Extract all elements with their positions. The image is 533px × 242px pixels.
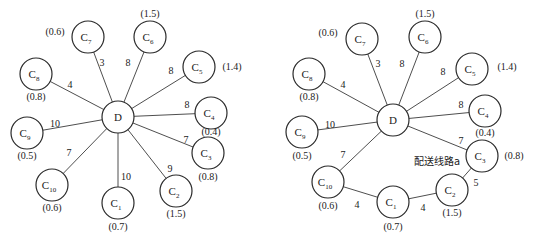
edge-weight: 8 bbox=[400, 58, 405, 69]
edge-weight: 8 bbox=[169, 65, 174, 76]
edge-weight: 4 bbox=[68, 79, 73, 90]
edge-weight: 10 bbox=[50, 118, 60, 129]
depot-node: D bbox=[102, 101, 134, 133]
edge-weight: 8 bbox=[441, 66, 446, 77]
customer-node-c9: C9 bbox=[286, 116, 318, 148]
customer-node-c4: C4 bbox=[195, 97, 227, 129]
depot-label: D bbox=[114, 111, 122, 123]
edge-D-4 bbox=[134, 114, 195, 117]
vehicle-routing-diagrams: 109788834107DC1(0.7)C2(1.5)C3(0.8)C4(0.4… bbox=[0, 0, 533, 242]
customer-demand: (0.5) bbox=[17, 150, 36, 162]
customer-demand: (0.6) bbox=[42, 202, 61, 214]
customer-demand: (0.6) bbox=[318, 200, 337, 212]
edge-weight: 7 bbox=[459, 135, 464, 146]
customer-node-c10: C10 bbox=[312, 166, 344, 198]
edge-weight: 4 bbox=[355, 199, 360, 210]
customer-demand: (1.5) bbox=[166, 208, 185, 220]
customer-node-c1: C1 bbox=[377, 186, 409, 218]
customer-demand: (0.6) bbox=[45, 26, 64, 38]
customer-demand: (1.4) bbox=[222, 61, 241, 73]
edge-weight: 4 bbox=[421, 202, 426, 213]
diagram-initial-star-network: 109788834107DC1(0.7)C2(1.5)C3(0.8)C4(0.4… bbox=[11, 8, 242, 233]
customer-node-c3: C3 bbox=[466, 140, 498, 172]
customer-node-c1: C1 bbox=[102, 187, 134, 219]
edge-D-4 bbox=[409, 113, 469, 119]
depot-label: D bbox=[389, 114, 397, 126]
customer-demand: (0.5) bbox=[292, 150, 311, 162]
edge-weight: 8 bbox=[126, 57, 131, 68]
edge-D-5 bbox=[406, 78, 458, 112]
customer-node-c7: C7 bbox=[346, 23, 378, 55]
customer-node-c6: C6 bbox=[409, 21, 441, 53]
edge-weight: 7 bbox=[341, 149, 346, 160]
customer-node-c9: C9 bbox=[11, 117, 43, 149]
customer-node-c7: C7 bbox=[72, 21, 104, 53]
depot-node: D bbox=[377, 104, 409, 136]
edge-1-2 bbox=[409, 193, 437, 199]
customer-demand: (0.6) bbox=[318, 27, 337, 39]
edge-weight: 7 bbox=[184, 134, 189, 145]
customer-node-c3: C3 bbox=[192, 137, 224, 169]
edge-10-1 bbox=[343, 187, 377, 198]
customer-node-c6: C6 bbox=[134, 21, 166, 53]
customer-demand: (0.8) bbox=[198, 171, 217, 183]
customer-demand: (1.5) bbox=[415, 8, 434, 20]
customer-demand: (1.5) bbox=[442, 207, 461, 219]
edge-D-8 bbox=[50, 81, 104, 109]
customer-demand: (0.8) bbox=[26, 91, 45, 103]
edge-weight: 10 bbox=[121, 171, 131, 182]
edge-2-3 bbox=[463, 168, 472, 178]
edge-weight: 10 bbox=[325, 119, 335, 130]
edge-weight: 7 bbox=[67, 147, 72, 158]
edge-D-5 bbox=[132, 75, 186, 108]
diagram-delivery-route-a: 788834107445DC1(0.7)C2(1.5)C3(0.8)C4(0.4… bbox=[286, 8, 524, 233]
customer-node-c2: C2 bbox=[436, 174, 468, 206]
customer-node-c5: C5 bbox=[456, 53, 488, 85]
customer-demand: (0.7) bbox=[383, 221, 402, 233]
customer-node-c5: C5 bbox=[183, 51, 215, 83]
edge-D-2 bbox=[128, 130, 166, 179]
customer-demand: (0.4) bbox=[201, 126, 220, 138]
customer-demand: (0.4) bbox=[475, 127, 494, 139]
edge-weight: 8 bbox=[459, 99, 464, 110]
edge-weight: 9 bbox=[168, 163, 173, 174]
edge-weight: 3 bbox=[100, 57, 105, 68]
edge-D-10 bbox=[340, 131, 382, 171]
edge-weight: 8 bbox=[185, 99, 190, 110]
customer-node-c10: C10 bbox=[36, 169, 68, 201]
customer-node-c8: C8 bbox=[20, 58, 52, 90]
customer-node-c8: C8 bbox=[293, 58, 325, 90]
customer-demand: (0.7) bbox=[108, 221, 127, 233]
edge-weight: 5 bbox=[474, 177, 479, 188]
customer-demand: (0.8) bbox=[299, 91, 318, 103]
customer-node-c4: C4 bbox=[469, 95, 501, 127]
edge-D-8 bbox=[323, 82, 379, 113]
customer-demand: (1.5) bbox=[140, 8, 159, 20]
customer-node-c2: C2 bbox=[160, 175, 192, 207]
route-label: 配送线路a bbox=[414, 155, 460, 167]
customer-demand: (1.4) bbox=[497, 61, 516, 73]
customer-demand: (0.8) bbox=[504, 150, 523, 162]
edge-weight: 3 bbox=[376, 58, 381, 69]
edge-weight: 4 bbox=[341, 79, 346, 90]
